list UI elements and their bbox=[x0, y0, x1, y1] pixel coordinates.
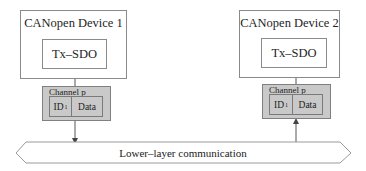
device-1-id-label: ID bbox=[53, 102, 63, 112]
device-2-title: CANopen Device 2 bbox=[240, 16, 339, 31]
device-1-tx-sdo: Tx–SDO bbox=[42, 39, 107, 69]
device-2-id-sub: 1 bbox=[285, 102, 288, 108]
device-2-tx-sdo: Tx–SDO bbox=[261, 38, 327, 68]
device-1-title: CANopen Device 1 bbox=[21, 16, 126, 31]
device-1-id-sub: 1 bbox=[65, 104, 68, 110]
device-2-id-field: ID1 bbox=[269, 94, 293, 115]
bus-label: Lower–layer communication bbox=[0, 147, 366, 159]
device-1-id-field: ID1 bbox=[49, 96, 72, 117]
device-2-id-label: ID bbox=[274, 100, 284, 110]
device-1-data-field: Data bbox=[71, 96, 103, 117]
device-2-data-field: Data bbox=[292, 94, 323, 115]
